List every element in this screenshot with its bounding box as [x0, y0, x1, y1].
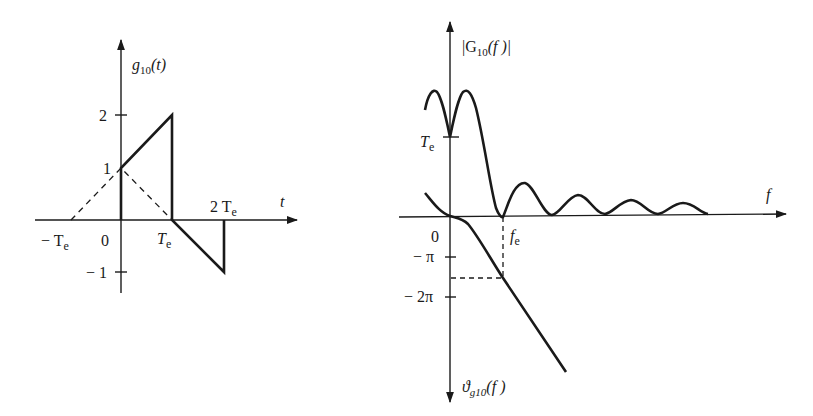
label-Te: Te — [157, 230, 171, 251]
label-Te-right: Te — [420, 133, 434, 154]
label-0: 0 — [101, 232, 109, 249]
label-minus-pi: − π — [413, 248, 434, 265]
magnitude-curve — [425, 91, 708, 217]
label-minus-1: − 1 — [86, 264, 107, 281]
right-x-axis — [399, 214, 786, 217]
phase-curve — [425, 193, 566, 372]
label-2Te: 2 Te — [210, 198, 237, 219]
label-fe: fe — [510, 227, 520, 248]
phase-label: ϑg10(f ) — [462, 378, 505, 398]
signal-g10 — [121, 115, 224, 272]
label-minus-Te: − Te — [41, 232, 69, 253]
label-minus-2pi: − 2π — [404, 288, 433, 305]
frequency-domain-chart: |G10(f )| f Te 0 fe − π − 2π ϑg10(f ) — [399, 22, 786, 402]
label-2: 2 — [99, 107, 107, 124]
left-xlabel: t — [280, 193, 285, 210]
time-domain-chart: g10(t) t 2 1 − 1 0 − Te Te 2 Te — [35, 40, 297, 293]
figure: g10(t) t 2 1 − 1 0 − Te Te 2 Te |G10(f )… — [0, 0, 813, 416]
label-0-right: 0 — [431, 228, 439, 245]
right-ylabel: |G10(f )| — [462, 38, 511, 58]
left-ylabel: g10(t) — [132, 56, 166, 76]
right-xlabel: f — [766, 186, 773, 204]
label-1: 1 — [103, 160, 111, 177]
dashed-fe-guide — [450, 217, 503, 278]
